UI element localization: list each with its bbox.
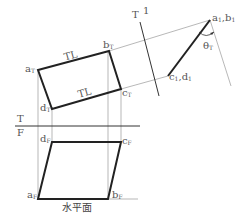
label-c-top: cT (122, 88, 132, 98)
label-theta-t: θT (203, 41, 213, 51)
reference-line-a1 (210, 20, 231, 86)
label-fold-t: T (17, 114, 24, 124)
label-fold-f: F (17, 128, 24, 138)
auxiliary-view-diagram (0, 0, 248, 224)
label-a1-b1: a1,b1 (212, 13, 235, 23)
label-b-top: bT (103, 40, 113, 50)
fold-line-t1 (140, 22, 159, 96)
label-fold-t-aux: T (132, 10, 139, 20)
fold-lines (15, 22, 159, 126)
label-d-top: dT (40, 103, 50, 113)
projection-line-b-to-a1 (109, 20, 210, 51)
front-view-plane (38, 142, 121, 199)
caption-horizontal-plane: 水平面 (62, 203, 92, 213)
label-c-front: cF (122, 136, 132, 146)
label-fold-1: 1 (143, 6, 149, 16)
label-a-top: aT (25, 64, 35, 74)
label-c1-d1: c1,d1 (169, 72, 192, 82)
label-b-front: bF (112, 190, 123, 200)
top-view-plane (38, 51, 121, 109)
label-a-front: aF (27, 190, 37, 200)
object-lines (38, 20, 210, 199)
label-d-front: dF (40, 134, 51, 144)
